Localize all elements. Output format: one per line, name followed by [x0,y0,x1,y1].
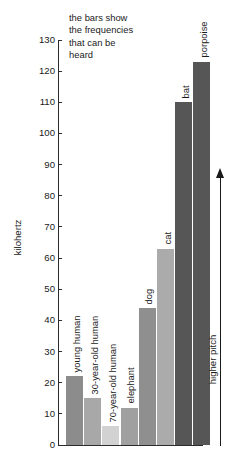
bar[interactable] [175,102,192,445]
bar-label: 30-year-old human [90,316,99,395]
bar[interactable] [121,408,138,445]
y-axis-tick-label: 100 [15,128,55,138]
y-axis-tick-label: 50 [15,284,55,294]
bar-group[interactable]: dog [139,40,156,445]
bar-group[interactable]: bat [175,40,192,445]
y-axis-tick-label: 20 [15,378,55,388]
arrow-label: higher pitch [207,310,218,410]
bar-label: cat [163,232,172,245]
y-axis-tick-label: 40 [15,315,55,325]
y-axis-tick-label: 130 [15,35,55,45]
bar-label: porpoise [199,22,208,58]
bar-group[interactable]: young human [66,40,83,445]
bar-group[interactable]: cat [157,40,174,445]
bar[interactable] [84,398,101,445]
higher-pitch-annotation: higher pitch [206,168,236,446]
y-axis-title: kilohertz [12,208,23,268]
arrow-shaft [220,176,221,446]
bar-group[interactable]: 70-year-old human [102,40,119,445]
bar-label: elephant [126,368,135,404]
bar-group[interactable]: 30-year-old human [84,40,101,445]
bar-label: bat [181,85,190,98]
bar[interactable] [102,426,119,445]
y-axis-tick-label: 120 [15,66,55,76]
y-axis-tick-label: 80 [15,191,55,201]
y-axis-tick-label: 30 [15,347,55,357]
bar[interactable] [157,249,174,445]
y-axis-tick-label: 10 [15,409,55,419]
bar-label: 70-year-old human [108,344,117,423]
bar[interactable] [66,376,83,445]
y-axis-tick-label: 110 [15,97,55,107]
x-axis-line [58,445,203,446]
y-axis-tick-label: 0 [15,440,55,450]
bar[interactable] [139,308,156,445]
bar-label: dog [144,288,153,304]
bar-label: young human [72,316,81,373]
kilohertz-bar-chart: the bars show the frequencies that can b… [0,0,241,463]
y-axis-tick-label: 90 [15,160,55,170]
plot-area: young human30-year-old human70-year-old … [59,40,203,445]
bar-group[interactable]: elephant [121,40,138,445]
